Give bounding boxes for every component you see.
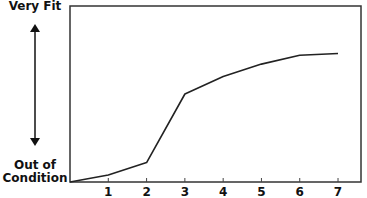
- x-tick-label: 7: [334, 185, 342, 198]
- x-tick-label: 5: [257, 185, 265, 198]
- line-chart: 1234567: [0, 0, 367, 198]
- x-axis-tick-labels: 1234567: [104, 185, 342, 198]
- plot-frame: [70, 6, 361, 182]
- x-tick-label: 6: [296, 185, 304, 198]
- x-tick-label: 1: [104, 185, 112, 198]
- x-tick-label: 4: [219, 185, 227, 198]
- x-tick-label: 3: [181, 185, 189, 198]
- x-tick-label: 2: [142, 185, 150, 198]
- fitness-line: [70, 54, 338, 183]
